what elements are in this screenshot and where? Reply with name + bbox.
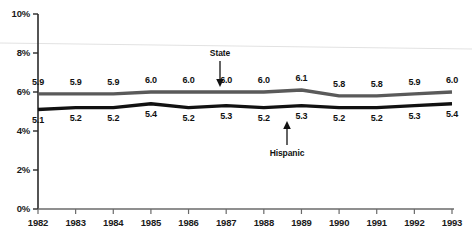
state-series-annotation-label: State [190, 48, 250, 58]
data-point-label: 5.2 [176, 113, 202, 123]
data-point-label: 5.3 [213, 111, 239, 121]
x-axis-ticks [38, 209, 452, 214]
x-axis-tick-label: 1990 [319, 217, 359, 228]
data-point-label: 5.9 [100, 77, 126, 87]
data-point-label: 5.2 [251, 113, 277, 123]
data-point-label: 6.0 [176, 75, 202, 85]
data-point-label: 5.8 [364, 79, 390, 89]
x-axis-tick-label: 1989 [281, 217, 321, 228]
data-point-label: 6.0 [439, 75, 465, 85]
data-point-label: 6.0 [138, 75, 164, 85]
series-line-state [38, 90, 452, 96]
data-point-label: 5.2 [63, 113, 89, 123]
data-point-label: 5.9 [401, 77, 427, 87]
data-point-label: 5.3 [288, 111, 314, 121]
chart-container: 0%2%4%6%8%10% 19821983198419851986198719… [0, 0, 472, 246]
x-axis-tick-label: 1993 [432, 217, 472, 228]
y-axis-tick-label: 6% [0, 86, 30, 97]
y-axis-tick-label: 0% [0, 203, 30, 214]
x-axis-tick-label: 1992 [394, 217, 434, 228]
y-axis-tick-label: 4% [0, 125, 30, 136]
data-point-label: 5.4 [138, 109, 164, 119]
data-point-label: 5.8 [326, 79, 352, 89]
data-point-label: 5.2 [326, 113, 352, 123]
data-point-label: 5.2 [100, 113, 126, 123]
data-point-label: 6.0 [213, 75, 239, 85]
x-axis-tick-label: 1988 [244, 217, 284, 228]
data-point-label: 6.0 [251, 75, 277, 85]
chart-plot-area [0, 0, 472, 246]
x-axis-tick-label: 1986 [169, 217, 209, 228]
data-point-label: 5.3 [401, 111, 427, 121]
data-point-label: 5.2 [364, 113, 390, 123]
x-axis-tick-label: 1985 [131, 217, 171, 228]
hispanic-series-annotation-label: Hispanic [257, 148, 317, 158]
data-point-label: 6.1 [288, 73, 314, 83]
hispanic-annotation-arrow [283, 121, 291, 145]
data-point-label: 5.9 [25, 77, 51, 87]
x-axis-tick-label: 1987 [206, 217, 246, 228]
x-axis-tick-label: 1991 [357, 217, 397, 228]
x-axis-tick-label: 1982 [18, 217, 58, 228]
y-axis-tick-label: 8% [0, 47, 30, 58]
x-axis-tick-label: 1984 [93, 217, 133, 228]
x-axis-tick-label: 1983 [56, 217, 96, 228]
series-line-hispanic [38, 104, 452, 110]
data-point-label: 5.1 [25, 115, 51, 125]
data-point-label: 5.4 [439, 109, 465, 119]
y-axis-tick-label: 2% [0, 164, 30, 175]
y-axis-tick-label: 10% [0, 8, 30, 19]
data-point-label: 5.9 [63, 77, 89, 87]
